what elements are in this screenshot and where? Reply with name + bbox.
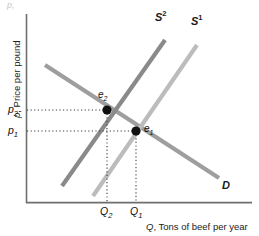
x-tick-label-q2: Q2 bbox=[100, 206, 112, 220]
plot-area bbox=[0, 0, 259, 236]
x-tick-label-q1: Q1 bbox=[130, 206, 142, 220]
supply-demand-chart: p, p, Price per pound Q, Tons of beef pe… bbox=[0, 0, 259, 236]
equilibrium-point-e1 bbox=[131, 126, 140, 135]
y-tick-label-p2: p2 bbox=[8, 104, 18, 118]
curve-label-s2: S2 bbox=[155, 10, 167, 23]
x-axis-description: , Tons of beef per year bbox=[153, 221, 247, 232]
curve-label-s1: S1 bbox=[191, 14, 203, 27]
y-axis-description: , Price per pound bbox=[11, 40, 22, 112]
y-tick-label-p1: p1 bbox=[8, 125, 18, 139]
equilibrium-label-e2: e2 bbox=[98, 90, 107, 102]
x-axis-title: Q, Tons of beef per year bbox=[146, 222, 248, 232]
demand-curve bbox=[45, 65, 219, 178]
equilibrium-label-e1: e1 bbox=[144, 124, 153, 136]
equilibrium-point-e2 bbox=[102, 105, 111, 114]
curve-label-d: D bbox=[222, 180, 230, 191]
